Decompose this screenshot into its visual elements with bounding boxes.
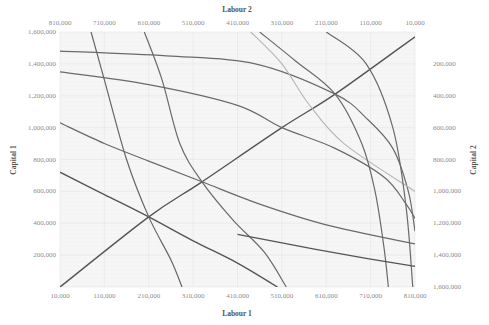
y-tick-label: 1,600,000 (28, 28, 57, 36)
x-tick-label: 110,000 (93, 292, 116, 300)
x2-tick-label: 710,000 (93, 19, 116, 27)
x-tick-label: 610,000 (315, 292, 338, 300)
x-tick-label: 710,000 (359, 292, 382, 300)
x2-tick-label: 510,000 (182, 19, 205, 27)
y-tick-label: 800,000 (33, 156, 56, 164)
y2-tick-label: 600,000 (433, 124, 456, 132)
x2-tick-label: 310,000 (271, 19, 294, 27)
y2-tick-label: 1,000,000 (433, 187, 462, 195)
x-tick-label: 510,000 (271, 292, 294, 300)
y-tick-label: 400,000 (33, 219, 56, 227)
y-axis-title-left: Capital 1 (9, 145, 18, 175)
x-tick-label: 310,000 (182, 292, 205, 300)
y-tick-label: 1,200,000 (28, 92, 57, 100)
x2-tick-label: 410,000 (226, 19, 249, 27)
y-tick-label: 600,000 (33, 187, 56, 195)
y2-tick-label: 1,200,000 (433, 219, 462, 227)
x2-tick-label: 610,000 (137, 19, 160, 27)
x-axis-title-top: Labour 2 (222, 5, 252, 14)
y-tick-label: 1,400,000 (28, 60, 57, 68)
x2-tick-label: 10,000 (405, 19, 425, 27)
y-tick-label: 1,000,000 (28, 124, 57, 132)
y-tick-label: 200,000 (33, 251, 56, 259)
x2-tick-label: 210,000 (315, 19, 338, 27)
x-tick-label: 10,000 (50, 292, 70, 300)
y2-tick-label: 1,400,000 (433, 251, 462, 259)
x-tick-label: 810,000 (404, 292, 427, 300)
y2-tick-label: 200,000 (433, 60, 456, 68)
x-tick-label: 410,000 (226, 292, 249, 300)
edgeworth-box-chart: 10,000110,000210,000310,000410,000510,00… (0, 0, 489, 325)
y2-tick-label: 800,000 (433, 156, 456, 164)
x-tick-label: 210,000 (137, 292, 160, 300)
x2-tick-label: 810,000 (49, 19, 72, 27)
y2-tick-label: 1,600,000 (433, 283, 462, 291)
y-axis-title-right: Capital 2 (469, 145, 478, 175)
y2-tick-label: 400,000 (433, 92, 456, 100)
x-axis-title-bottom: Labour 1 (222, 309, 252, 318)
x2-tick-label: 110,000 (359, 19, 382, 27)
